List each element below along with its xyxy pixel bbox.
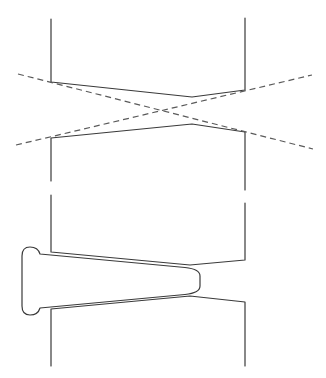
top-lower-block [51,124,245,190]
dashed-line-ascending [16,75,312,145]
panel-bottom [22,195,245,366]
bottom-upper-block [51,195,245,265]
dashed-line-descending [18,74,313,149]
bottom-lower-block [51,296,245,366]
top-upper-block [51,18,245,97]
panel-top [16,18,313,190]
diagram-canvas [0,0,326,378]
